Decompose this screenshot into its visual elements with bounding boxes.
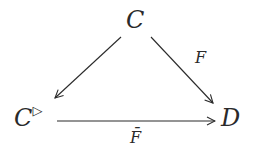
arrow-top-to-left [55, 37, 121, 98]
arrow-top-to-right [151, 37, 213, 103]
triangle-superscript: ▷ [32, 103, 42, 118]
node-top-category: C [126, 8, 144, 32]
node-top-label: C [126, 6, 144, 34]
edge-label-F-text: F [195, 48, 206, 67]
edge-label-F: F [195, 50, 206, 66]
node-left-cocone-category: C▷ [14, 106, 42, 130]
node-right-label: D [221, 104, 240, 132]
node-right-category: D [221, 106, 240, 130]
edge-label-F-bar: F̄ [130, 130, 141, 146]
node-left-label: C [14, 104, 32, 132]
edge-label-F-bar-text: F̄ [130, 128, 141, 147]
